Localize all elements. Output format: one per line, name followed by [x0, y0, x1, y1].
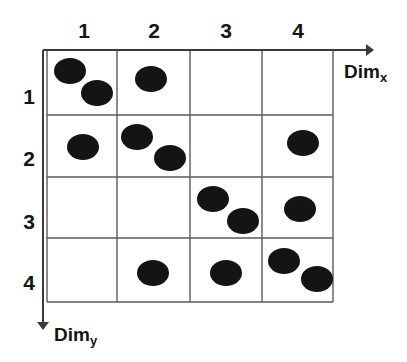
row-header-2: 2 [17, 148, 41, 169]
row-header-4: 4 [17, 272, 41, 293]
data-point [67, 134, 99, 160]
data-point [284, 196, 316, 222]
column-header-2: 2 [142, 20, 166, 41]
column-header-3: 3 [214, 20, 238, 41]
y-axis-label-subscript: y [90, 333, 97, 348]
column-header-4: 4 [286, 20, 310, 41]
figure-canvas: 1 2 3 4 1 2 3 4 Dimx Dimy [0, 0, 407, 362]
data-point [287, 130, 319, 156]
arrow-down-icon [37, 322, 49, 330]
x-axis-label-text: Dim [344, 61, 380, 82]
arrow-right-icon [366, 44, 374, 56]
data-point [154, 145, 186, 171]
data-point [268, 248, 300, 274]
data-point [227, 208, 259, 234]
x-axis [43, 44, 374, 56]
row-header-3: 3 [17, 211, 41, 232]
y-axis-label-text: Dim [54, 324, 90, 345]
y-axis-label: Dimy [54, 325, 97, 344]
data-point [121, 124, 153, 150]
data-point [135, 66, 167, 92]
data-point-group [54, 58, 333, 292]
x-axis-label: Dimx [344, 62, 387, 81]
data-point [54, 58, 86, 84]
column-header-1: 1 [72, 20, 96, 41]
row-header-1: 1 [17, 86, 41, 107]
data-point [210, 260, 242, 286]
data-point [197, 186, 229, 212]
data-point [301, 266, 333, 292]
scatter-grid-plot [0, 0, 407, 362]
x-axis-label-subscript: x [380, 70, 387, 85]
data-point [137, 260, 169, 286]
data-point [81, 80, 113, 106]
